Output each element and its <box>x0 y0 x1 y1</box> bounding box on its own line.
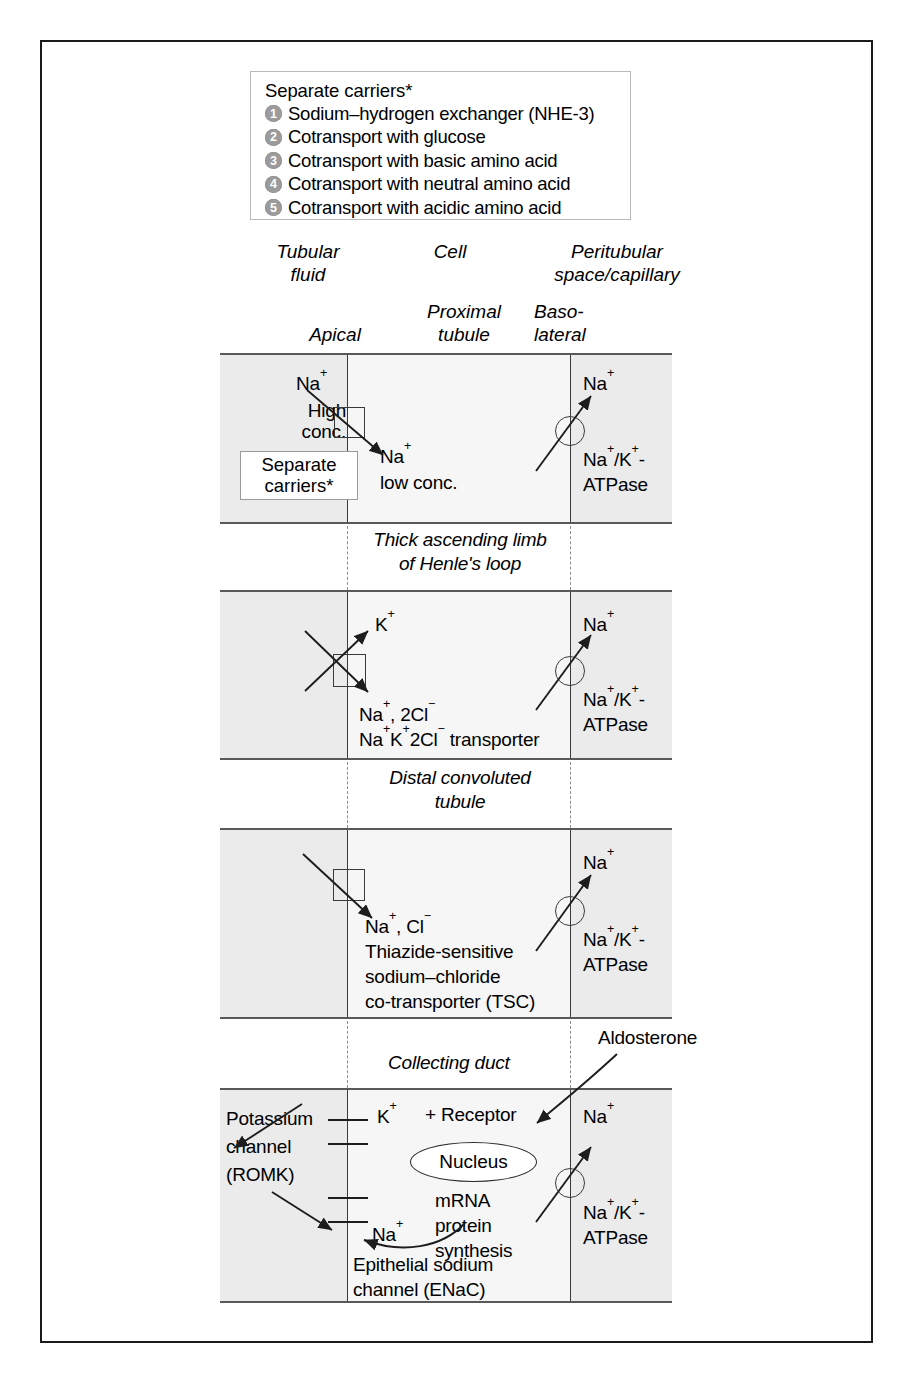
label-tsc-line1: Thiazide-sensitive <box>365 941 513 962</box>
legend-badge-3: 3 <box>265 152 282 169</box>
label-atpase: ATPase <box>583 1227 648 1248</box>
header-cell: Cell <box>390 240 510 263</box>
legend-label-5: Cotransport with acidic amino acid <box>288 197 561 219</box>
legend-badge-4: 4 <box>265 176 282 193</box>
header-apical: Apical <box>280 323 390 346</box>
label-atpase: ATPase <box>583 954 648 975</box>
label-na-k-atpase: Na+/K+- <box>583 449 645 470</box>
legend-item: 4 Cotransport with neutral amino acid <box>265 173 630 197</box>
legend-item: 3 Cotransport with basic amino acid <box>265 149 630 173</box>
label-protein: protein <box>435 1215 492 1236</box>
label-na-apical: Na+ <box>372 1224 403 1245</box>
header-peritubular: Peritubular space/capillary <box>512 240 722 286</box>
panel-distal-convoluted-tubule: Na+, Cl− Thiazide-sensitive sodium–chlor… <box>220 828 672 1019</box>
legend-item: 2 Cotransport with glucose <box>265 126 630 150</box>
label-na-2cl: Na+, 2Cl− <box>359 704 435 725</box>
legend-label-3: Cotransport with basic amino acid <box>288 150 557 172</box>
label-aldosterone: Aldosterone <box>598 1027 697 1048</box>
legend-badge-2: 2 <box>265 129 282 146</box>
basolateral-membrane-dashed <box>570 1021 571 1088</box>
legend-label-2: Cotransport with glucose <box>288 126 486 148</box>
label-na-cl: Na+, Cl− <box>365 916 431 937</box>
cell-column <box>347 355 570 522</box>
header-basolateral: Baso- lateral <box>534 300 654 346</box>
label-na-k-atpase: Na+/K+- <box>583 929 645 950</box>
label-potassium-channel: Potassium channel (ROMK) <box>226 1105 313 1189</box>
tsc-transporter-box <box>333 869 365 901</box>
title-distal-convoluted-tubule: Distal convoluted tubule <box>348 766 572 814</box>
label-na-peritubular: Na+ <box>583 1106 614 1127</box>
nucleus-ellipse: Nucleus <box>410 1142 537 1182</box>
label-tsc-line3: co-transporter (TSC) <box>365 991 535 1012</box>
label-na-peritubular: Na+ <box>583 852 614 873</box>
legend-item: 5 Cotransport with acidic amino acid <box>265 196 630 220</box>
legend-badge-1: 1 <box>265 105 282 122</box>
panel-collecting-duct: Potassium channel (ROMK) K+ + Receptor N… <box>220 1088 672 1303</box>
label-k-out: K+ <box>375 614 395 635</box>
legend-badge-5: 5 <box>265 199 282 216</box>
label-low-conc: low conc. <box>380 472 457 493</box>
legend-title: Separate carriers* <box>265 79 630 102</box>
label-atpase: ATPase <box>583 714 648 735</box>
na-k-atpase-symbol <box>555 1168 585 1198</box>
panel-proximal-tubule: Na+ High conc. Separate carriers* Na+ lo… <box>220 353 672 524</box>
label-na-cell: Na+ <box>380 446 411 467</box>
carrier-box-proximal <box>334 407 365 438</box>
separate-carriers-box: Separate carriers* <box>240 451 358 500</box>
label-na-k-atpase: Na+/K+- <box>583 1202 645 1223</box>
title-thick-ascending-limb: Thick ascending limb of Henle's loop <box>348 528 572 576</box>
romk-channel-bar-top <box>328 1119 368 1121</box>
legend-item: 1 Sodium–hydrogen exchanger (NHE-3) <box>265 102 630 126</box>
label-atpase: ATPase <box>583 474 648 495</box>
legend-label-4: Cotransport with neutral amino acid <box>288 173 570 195</box>
label-na-lumen: Na+ <box>296 373 327 394</box>
na-k-atpase-symbol <box>555 656 585 686</box>
label-mrna: mRNA <box>435 1190 490 1211</box>
header-tubular-fluid: Tubular fluid <box>238 240 378 286</box>
label-enac-line1: Epithelial sodium <box>353 1254 493 1275</box>
label-na-peritubular: Na+ <box>583 373 614 394</box>
title-collecting-duct: Collecting duct <box>388 1052 510 1073</box>
diagram-stage: Separate carriers* 1 Sodium–hydrogen exc… <box>42 42 875 1345</box>
apical-membrane <box>347 1090 348 1301</box>
figure-frame: Separate carriers* 1 Sodium–hydrogen exc… <box>40 40 873 1343</box>
label-plus-receptor: + Receptor <box>425 1104 516 1125</box>
label-na-peritubular: Na+ <box>583 614 614 635</box>
romk-channel-bar-bottom <box>328 1143 368 1145</box>
legend-box: Separate carriers* 1 Sodium–hydrogen exc… <box>250 71 631 220</box>
panel-thick-ascending-limb: K+ Na+, 2Cl− Na+K+2Cl− transporter Na+ N… <box>220 590 672 760</box>
label-nkcc-transporter: Na+K+2Cl− transporter <box>359 729 539 750</box>
nkcc-transporter-box <box>333 654 366 687</box>
label-tsc-line2: sodium–chloride <box>365 966 500 987</box>
na-k-atpase-symbol <box>555 416 585 446</box>
legend-label-1: Sodium–hydrogen exchanger (NHE-3) <box>288 103 594 125</box>
label-k-ion: K+ <box>377 1106 397 1127</box>
label-enac-line2: channel (ENaC) <box>353 1279 485 1300</box>
na-k-atpase-symbol <box>555 896 585 926</box>
apical-membrane-dashed <box>347 1021 348 1088</box>
label-na-k-atpase: Na+/K+- <box>583 689 645 710</box>
apical-membrane <box>347 830 348 1017</box>
header-proximal-tubule: Proximal tubule <box>394 300 534 346</box>
enac-channel-bar-top <box>328 1197 368 1199</box>
enac-channel-bar-bottom <box>328 1221 368 1223</box>
